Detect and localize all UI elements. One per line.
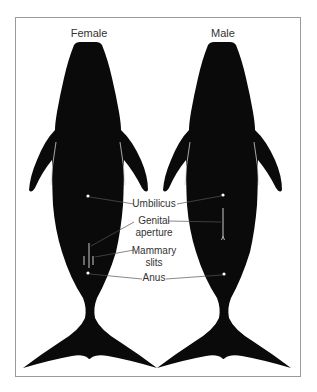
female-anus-marker bbox=[86, 271, 89, 274]
female-umbilicus-marker bbox=[86, 194, 89, 197]
male-anus-marker bbox=[222, 272, 225, 275]
label-anus: Anus bbox=[126, 272, 182, 284]
label-genital-line1: Genital bbox=[126, 215, 182, 227]
male-title: Male bbox=[192, 27, 254, 39]
male-umbilicus-marker bbox=[221, 193, 224, 196]
label-genital-line2: aperture bbox=[126, 227, 182, 239]
label-mammary-line1: Mammary bbox=[126, 245, 182, 257]
female-title: Female bbox=[58, 27, 120, 39]
label-mammary-line2: slits bbox=[126, 257, 182, 269]
whale-diagram bbox=[0, 0, 317, 392]
label-umbilicus: Umbilicus bbox=[126, 198, 182, 210]
